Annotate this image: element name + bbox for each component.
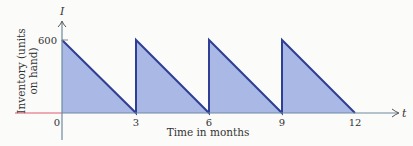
inventory-sawtooth-chart: I t 600 0 3 6 9 12 Time in months Invent… (0, 0, 413, 146)
x-tick-0: 0 (54, 117, 60, 128)
y-axis-label: Inventory (units on hand) (15, 28, 39, 113)
svg-text:Inventory (units: Inventory (units (15, 28, 27, 113)
svg-text:on hand): on hand) (27, 47, 39, 94)
y-axis-symbol: I (59, 5, 65, 18)
x-tick-3: 3 (133, 117, 139, 128)
x-axis-label: Time in months (167, 126, 250, 138)
y-tick-600: 600 (38, 35, 57, 46)
x-tick-9: 9 (279, 117, 285, 128)
x-tick-12: 12 (349, 117, 362, 128)
x-axis-symbol: t (402, 107, 407, 120)
